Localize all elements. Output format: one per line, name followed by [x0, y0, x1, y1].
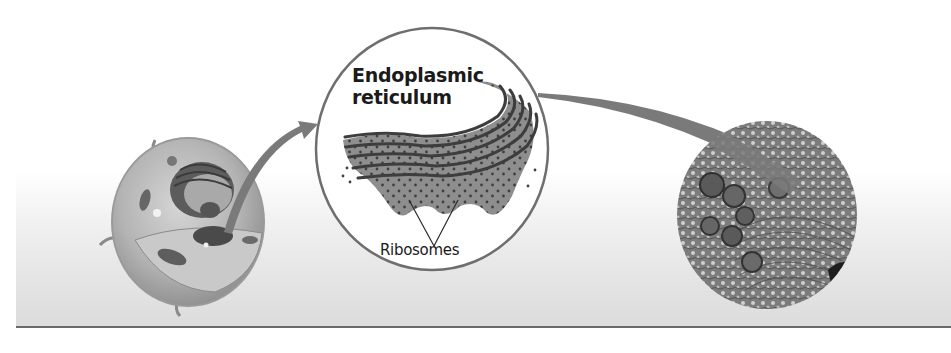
er-title-line-1: Endoplasmic	[352, 64, 492, 86]
er-title-line-2: reticulum	[352, 86, 492, 108]
diagram-canvas	[0, 0, 951, 353]
animal-cell-illustration	[100, 138, 264, 316]
ribosomes-label: Ribosomes	[380, 241, 459, 259]
er-micrograph	[677, 120, 860, 309]
er-title-label: Endoplasmic reticulum	[352, 64, 492, 108]
